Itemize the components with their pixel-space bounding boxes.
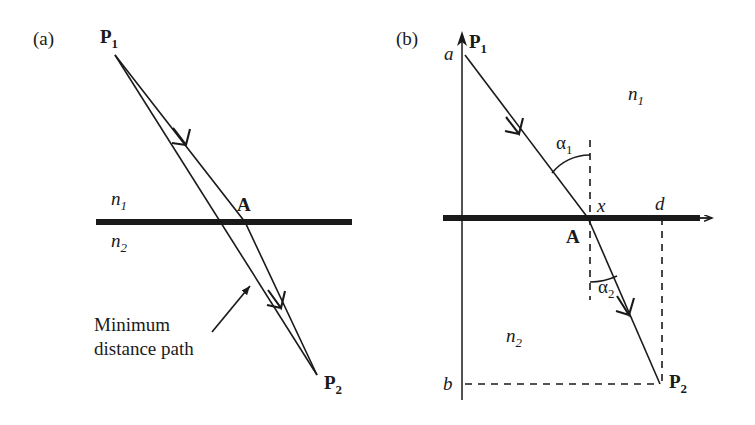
panel-a-upper-direction-arrow: [172, 128, 190, 145]
panel-b-medium-n2-letter: n: [506, 325, 516, 346]
panel-a-medium-n2-sub: 2: [121, 240, 127, 255]
panel-b-angle-alpha2-sub: 2: [608, 286, 614, 301]
panel-a-medium-n1-sub: 1: [121, 198, 127, 213]
panel-b-axis-point-a: a: [444, 44, 454, 63]
panel-b-point-p2: P2: [669, 372, 687, 396]
panel-b-axis-point-b: b: [443, 374, 453, 393]
panel-b-angle-alpha1-arc: [552, 155, 590, 173]
panel-b-point-p1-sub: 1: [481, 41, 487, 56]
panel-b-point-p1-letter: P: [469, 31, 481, 52]
panel-a-annotation-line1: Minimum: [94, 313, 170, 336]
panel-a-point-p2-sub: 2: [336, 382, 342, 397]
panel-a-point-p1-sub: 1: [112, 36, 118, 51]
panel-b-angle-alpha1-label: α1: [556, 133, 572, 157]
panel-a-medium-n1: n1: [111, 189, 127, 213]
panel-b-coordinate-x: x: [597, 196, 605, 215]
panel-a-medium-n1-letter: n: [111, 188, 121, 209]
panel-b-angle-alpha2-symbol: α: [598, 276, 608, 297]
panel-a-medium-n2: n2: [111, 231, 127, 255]
panel-a-tag: (a): [33, 29, 54, 48]
panel-b-medium-n1-sub: 1: [638, 93, 644, 108]
panel-a-point-p1: P1: [100, 27, 118, 51]
panel-a-point-a: A: [237, 195, 251, 214]
panel-a-point-p1-letter: P: [100, 26, 112, 47]
panel-a-annotation-arrow: [212, 286, 250, 332]
panel-b-refracted-ray: [588, 218, 660, 384]
panel-a-point-p2: P2: [324, 373, 342, 397]
panel-b-refracted-direction-arrow: [616, 296, 634, 315]
panel-b-point-a: A: [566, 227, 580, 246]
panel-a-annotation-line2: distance path: [94, 337, 194, 360]
panel-b-medium-n2-sub: 2: [516, 335, 522, 350]
panel-b-graphics: [443, 31, 712, 400]
panel-b-medium-n1-letter: n: [628, 83, 638, 104]
panel-b-point-p1: P1: [469, 32, 487, 56]
panel-b-point-p2-letter: P: [669, 371, 681, 392]
panel-b-distance-d: d: [655, 194, 665, 213]
panel-b-tag: (b): [396, 29, 418, 48]
panel-b-angle-alpha2-label: α2: [598, 277, 614, 301]
panel-b-angle-alpha1-symbol: α: [556, 132, 566, 153]
panel-b-point-p2-sub: 2: [681, 381, 687, 396]
figure-root: (a) P1 P2 A n1 n2 Minimum distance path …: [0, 0, 755, 425]
panel-b-medium-n2: n2: [506, 326, 522, 350]
panel-a-medium-n2-letter: n: [111, 230, 121, 251]
panel-a-point-p2-letter: P: [324, 372, 336, 393]
panel-b-medium-n1: n1: [628, 84, 644, 108]
panel-b-angle-alpha1-sub: 1: [566, 142, 572, 157]
